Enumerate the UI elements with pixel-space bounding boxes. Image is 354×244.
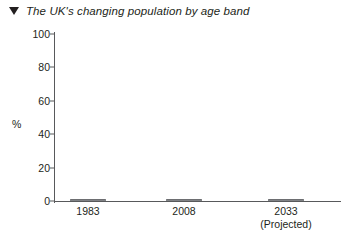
x-label-text: 1983 (76, 205, 99, 217)
y-tick-label-20: 20 (6, 162, 50, 174)
bar-segment-middle (167, 200, 201, 201)
triangle-down-icon (9, 7, 19, 15)
bar-2008 (166, 199, 202, 201)
x-label-sublabel: (Projected) (236, 218, 336, 231)
x-tick-label-2008: 2008 (134, 205, 234, 218)
x-axis-line (54, 201, 341, 202)
chart-title-bar: The UK's changing population by age band (0, 0, 354, 22)
y-tick-label-100: 100 (6, 28, 50, 40)
x-label-text: 2033 (274, 205, 297, 217)
y-tick-label-60: 60 (6, 95, 50, 107)
y-axis-title: % (12, 118, 21, 130)
bar-segment-middle (269, 200, 303, 201)
page-title: The UK's changing population by age band (26, 5, 250, 17)
chart-container: 100 80 60 40 20 0 % (0, 22, 354, 244)
bar-2033 (268, 199, 304, 201)
x-tick-label-1983: 1983 (38, 205, 138, 218)
y-tick-label-80: 80 (6, 61, 50, 73)
bar-1983 (70, 199, 106, 201)
bar-segment-middle (71, 200, 105, 201)
x-label-text: 2008 (172, 205, 195, 217)
x-tick-label-2033: 2033 (Projected) (236, 205, 336, 231)
plot-area (55, 34, 340, 201)
